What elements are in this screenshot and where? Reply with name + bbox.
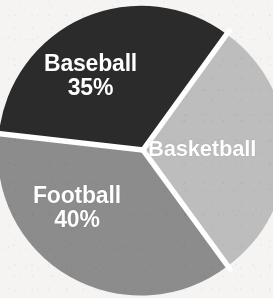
pie-label-football: Football 40% bbox=[33, 184, 121, 232]
pie-label-baseball: Baseball 35% bbox=[44, 52, 137, 100]
pie-label-football-value: 40% bbox=[33, 208, 121, 232]
pie-label-basketball-name: Basketball bbox=[148, 138, 256, 161]
pie-label-baseball-name: Baseball bbox=[44, 52, 137, 76]
pie-label-basketball: Basketball bbox=[148, 138, 256, 161]
pie-label-baseball-value: 35% bbox=[44, 76, 137, 100]
pie-chart-image: Baseball 35% Basketball Football 40% bbox=[0, 0, 273, 298]
pie-label-football-name: Football bbox=[33, 184, 121, 208]
